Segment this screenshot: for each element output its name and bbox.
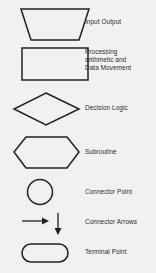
legend-label-subroutine: Subroutine [85,148,117,156]
arrow-down-icon [55,213,62,235]
legend-label-connector-arrows: Connector Arrows [85,218,137,226]
legend-label-connector-point: Connector Point [85,188,132,196]
arrow-right-icon [22,218,49,225]
legend-row-decision-logic: Decision Logic [0,88,156,132]
legend-row-terminal-point: Terminal Point [0,240,156,273]
stadium-shape-icon [0,240,100,273]
legend-row-processing: Processing arithmetic and Data Movement [0,44,156,88]
legend-row-connector-point: Connector Point [0,174,156,210]
legend-label-processing: Processing arithmetic and Data Movement [85,48,131,73]
legend-label-decision-logic: Decision Logic [85,104,128,112]
legend-row-input-output: Input Output [0,0,156,44]
legend-label-input-output: Input Output [85,18,121,26]
flowchart-symbol-legend: Input Output Processing arithmetic and D… [0,0,156,273]
legend-label-terminal-point: Terminal Point [85,248,127,256]
legend-row-connector-arrows: Connector Arrows [0,210,156,242]
legend-row-subroutine: Subroutine [0,132,156,174]
